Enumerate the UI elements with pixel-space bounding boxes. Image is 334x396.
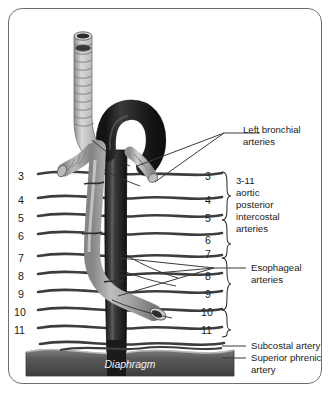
left-bronchial-label-line1: Left bronchial <box>243 124 301 135</box>
superior-phrenic-label-line2: artery <box>251 364 276 375</box>
left-number: 4 <box>18 194 24 206</box>
diaphragm-label: Diaphragm <box>105 359 156 370</box>
left-number: 9 <box>18 288 24 300</box>
intercostal-vessel <box>38 232 222 235</box>
right-number: 8 <box>205 270 211 282</box>
left-number: 7 <box>18 252 24 264</box>
illustration-canvas: Diaphragm 3 4 5 6 7 8 9 10 11 3 4 5 6 <box>0 0 334 396</box>
left-number: 3 <box>18 170 24 182</box>
esophageal-label-line1: Esophageal <box>251 262 302 273</box>
left-number: 8 <box>18 270 24 282</box>
intercostal-vessel <box>38 254 222 257</box>
right-number-labels: 3 4 5 6 7 8 9 10 11 <box>201 170 213 336</box>
left-number: 5 <box>18 212 24 224</box>
subcostal-artery-label: Subcostal artery <box>251 340 321 351</box>
esophageal-brace <box>222 258 231 337</box>
intercostal-vessel <box>38 196 222 199</box>
right-text-labels: Left bronchial arteries 3-11 aortic post… <box>236 124 322 375</box>
superior-phrenic-vessel <box>60 347 222 350</box>
left-number-labels: 3 4 5 6 7 8 9 10 11 <box>14 170 26 336</box>
aortic-intercostal-brace <box>222 172 231 258</box>
right-number: 3 <box>205 170 211 182</box>
aortic-intercostal-label-line5: arteries <box>236 223 268 234</box>
left-number: 10 <box>14 306 26 318</box>
superior-phrenic-label-line1: Superior phrenic <box>251 352 322 363</box>
right-number: 10 <box>201 306 213 318</box>
right-number: 4 <box>205 194 211 206</box>
esophageal-label-line2: arteries <box>251 274 283 285</box>
right-number: 7 <box>205 248 211 260</box>
aortic-intercostal-label-line1: 3-11 <box>236 175 255 186</box>
left-bronchial-label-line2: arteries <box>243 136 275 147</box>
right-number: 11 <box>201 324 212 336</box>
aortic-intercostal-label-line4: intercostal <box>236 211 280 222</box>
left-main-bronchus <box>56 150 92 178</box>
intercostal-vessel <box>38 214 222 217</box>
intercostal-vessel <box>38 326 222 329</box>
right-number: 5 <box>205 212 211 224</box>
left-number: 6 <box>18 230 24 242</box>
aortic-intercostal-label-line2: aortic <box>236 187 260 198</box>
subcostal-artery-vessel <box>40 342 224 345</box>
anatomical-figure: Diaphragm 3 4 5 6 7 8 9 10 11 3 4 5 6 <box>0 0 334 396</box>
right-number: 6 <box>205 234 211 246</box>
right-number: 9 <box>205 288 211 300</box>
aortic-intercostal-label-line3: posterior <box>236 199 274 210</box>
left-number: 11 <box>14 324 25 336</box>
